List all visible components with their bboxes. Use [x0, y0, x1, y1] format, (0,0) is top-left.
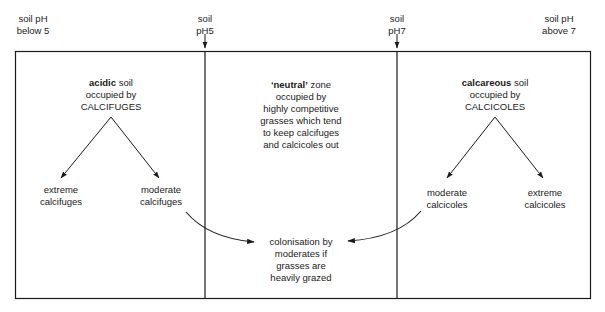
colonisation-label: colonisation by moderates if grasses are…: [270, 236, 333, 284]
arrow-to-moderate-calcicoles: [447, 117, 495, 178]
extreme-calcifuges-label: extreme calcifuges: [40, 184, 82, 208]
acidic-zone-title: acidic soil occupied by CALCIFUGES: [81, 77, 142, 113]
moderate-calcicoles-label: moderate calcicoles: [426, 187, 467, 211]
moderate-calcifuges-label: moderate calcifuges: [140, 184, 182, 208]
label-ph7: soil pH7: [388, 13, 405, 37]
arrow-to-moderate-calcifuges: [111, 117, 159, 178]
curved-arrow-calcicoles-to-colonisation: [348, 211, 421, 241]
calcareous-zone-title: calcareous soil occupied by CALCICOLES: [462, 77, 529, 113]
neutral-zone-description: ‘neutral’ zone occupied by highly compet…: [260, 79, 341, 151]
label-ph-below-5: soil pH below 5: [17, 13, 50, 37]
label-ph-above-7: soil pH above 7: [542, 13, 576, 37]
arrow-to-extreme-calcicoles: [495, 117, 543, 178]
label-ph5: soil pH5: [196, 13, 213, 37]
extreme-calcicoles-label: extreme calcicoles: [524, 187, 565, 211]
arrow-to-extreme-calcifuges: [61, 117, 111, 178]
curved-arrow-calcifuges-to-colonisation: [186, 212, 254, 242]
